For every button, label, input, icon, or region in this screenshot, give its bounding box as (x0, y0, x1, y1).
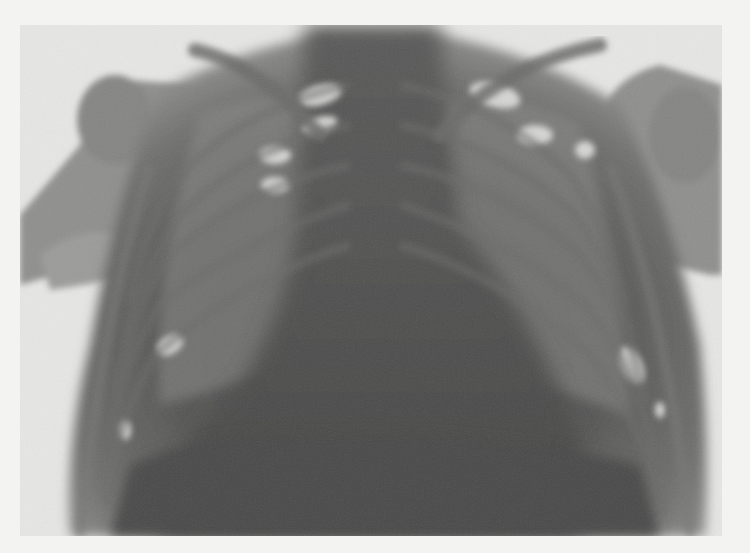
xray-image (20, 25, 722, 536)
xray-film (20, 25, 722, 536)
film-grain (20, 25, 722, 536)
page-background (0, 0, 750, 553)
